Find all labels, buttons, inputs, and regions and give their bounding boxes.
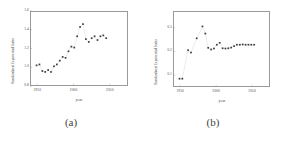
data-point [97,39,99,41]
data-point [233,45,235,47]
data-point [85,38,87,40]
data-point [53,65,55,67]
data-point [181,78,183,80]
data-point [47,69,49,71]
data-point [91,37,93,39]
data-point [76,35,78,37]
x-tick-label: 1950 [176,90,184,94]
data-point [88,41,90,43]
data-point [187,49,189,51]
scatter-plot-a [0,0,142,112]
x-tick-label: 2050 [248,90,256,94]
data-point [230,47,232,49]
data-point [239,44,241,46]
data-point [65,57,67,59]
data-point [73,47,75,49]
chart-panel-a: 0.81.01.21.41.6195020002050 year Standar… [0,0,142,144]
data-point [250,44,252,46]
y-tick-label: 0.2 [164,50,172,54]
chart-panel-b: 0.10.20.3195020002050 year Standardized … [142,0,284,144]
data-point [105,37,107,39]
data-point [248,44,250,46]
data-point [39,64,41,66]
data-point [225,48,227,50]
data-point [196,37,198,39]
data-point [59,60,61,62]
data-point [44,71,46,73]
caption-b: (b) [142,116,284,128]
figure-container: 0.81.01.21.41.6195020002050 year Standar… [0,0,284,144]
x-axis-title-b: year [219,98,226,103]
data-point [222,47,224,49]
data-point [79,26,81,28]
data-point [202,26,204,28]
data-point [62,56,64,58]
data-point [94,35,96,37]
data-point [100,35,102,37]
data-point [56,64,58,66]
data-point [41,70,43,72]
data-point [204,33,206,35]
data-point [102,35,104,37]
data-point [253,44,255,46]
data-point [210,49,212,51]
y-tick-label: 1.0 [21,65,29,69]
x-tick-label: 2000 [70,89,78,93]
data-point [36,65,38,67]
y-axis-title-a: Standardized Exponential Index [11,38,15,84]
y-tick-label: 0.1 [164,73,172,77]
data-point [68,50,70,52]
data-point [179,78,181,80]
y-tick-label: 1.2 [21,47,29,51]
x-tick-label: 1950 [33,89,41,93]
data-point [207,47,209,49]
data-point [236,44,238,46]
data-point [213,48,215,50]
plot-area-b: 0.10.20.3195020002050 year Standardized … [142,0,284,112]
data-point [50,71,52,73]
data-point [219,42,221,44]
data-point [242,44,244,46]
data-point [245,44,247,46]
data-point [190,52,192,54]
scatter-plot-b [142,0,284,112]
x-tick-label: 2000 [212,90,220,94]
series-connector [37,24,107,72]
data-point [82,23,84,25]
x-tick-label: 2050 [106,89,114,93]
caption-a: (a) [0,116,142,128]
y-tick-label: 1.6 [21,9,29,13]
y-tick-label: 0.8 [21,84,29,88]
data-point [216,44,218,46]
y-tick-label: 0.3 [164,26,172,30]
y-tick-label: 1.4 [21,28,29,32]
data-point [227,47,229,49]
y-axis-title-b: Standardized Exponential Index [154,39,158,85]
plot-area-a: 0.81.01.21.41.6195020002050 year Standar… [0,0,142,112]
x-axis-title-a: year [76,97,83,102]
data-point [71,46,73,48]
